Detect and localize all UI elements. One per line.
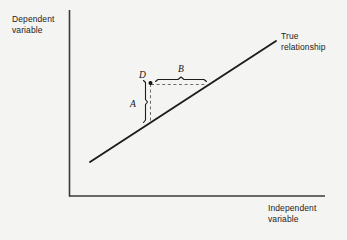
rise-a-label: A [130, 99, 136, 109]
regression-diagram-figure: Dependent variable Independent variable … [0, 0, 347, 240]
brace-b-horizontal [156, 77, 207, 82]
point-d-label: D [139, 70, 146, 80]
run-b-label: B [178, 64, 184, 74]
point-d-marker [149, 81, 153, 85]
y-axis-label: Dependent variable [12, 14, 55, 35]
true-relationship-line [90, 41, 276, 162]
true-relationship-label: True relationship [281, 31, 326, 52]
x-axis-label: Independent variable [268, 203, 316, 224]
brace-a-vertical [144, 81, 148, 123]
